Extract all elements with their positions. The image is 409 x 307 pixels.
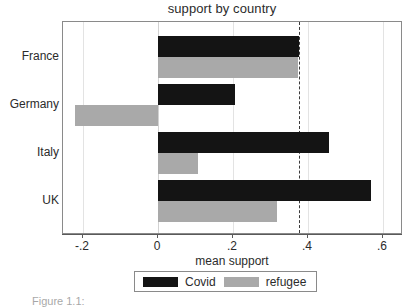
legend-label-covid: Covid <box>185 275 216 289</box>
bar-france-covid <box>158 36 299 57</box>
x-tick-mark-4 <box>382 234 383 238</box>
bar-uk-covid <box>158 180 371 201</box>
plot-frame <box>62 21 402 234</box>
x-axis-title: mean support <box>62 254 402 268</box>
legend-swatch-covid <box>143 277 178 287</box>
x-tick-label-0: -.2 <box>57 239 107 253</box>
bar-italy-covid <box>158 132 329 153</box>
x-tick-label-3: .4 <box>282 239 332 253</box>
figure-caption: Figure 1.1: <box>32 295 85 307</box>
y-axis-label-italy: Italy <box>0 145 59 159</box>
x-tick-mark-0 <box>82 234 83 238</box>
y-axis-label-france: France <box>0 49 59 63</box>
bar-germany-refugee <box>75 105 158 126</box>
x-tick-mark-3 <box>307 234 308 238</box>
plot-area <box>63 22 401 233</box>
y-axis-label-germany: Germany <box>0 97 59 111</box>
x-tick-label-4: .6 <box>357 239 407 253</box>
chart-title: support by country <box>62 1 382 16</box>
bar-france-refugee <box>158 57 298 78</box>
gridline-4 <box>383 22 384 233</box>
gridline-0 <box>83 22 84 233</box>
legend-entry-refugee: refugee <box>216 272 307 291</box>
chart-legend: Covidrefugee <box>134 271 317 292</box>
legend-swatch-refugee <box>224 277 259 287</box>
gridline-3 <box>308 22 309 233</box>
x-tick-label-1: 0 <box>132 239 182 253</box>
bar-italy-refugee <box>158 153 198 174</box>
y-axis-label-uk: UK <box>0 193 59 207</box>
reference-line <box>299 22 300 233</box>
bar-germany-covid <box>158 84 235 105</box>
x-tick-mark-2 <box>232 234 233 238</box>
x-tick-label-2: .2 <box>207 239 257 253</box>
bar-uk-refugee <box>158 201 277 222</box>
legend-entry-covid: Covid <box>135 272 216 291</box>
x-tick-mark-1 <box>157 234 158 238</box>
legend-label-refugee: refugee <box>266 275 307 289</box>
